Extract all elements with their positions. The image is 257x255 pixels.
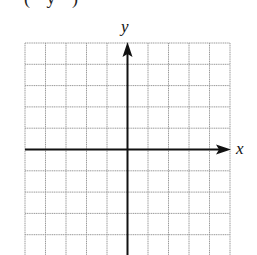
y-axis-label: y: [121, 18, 129, 35]
x-axis-label: x: [236, 140, 244, 157]
coordinate-plane: [0, 0, 257, 255]
